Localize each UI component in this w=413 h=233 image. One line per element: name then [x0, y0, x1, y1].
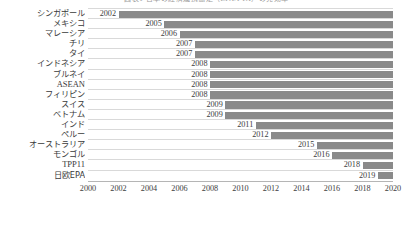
- row-track: 2019: [88, 170, 393, 180]
- row-track: 2011: [88, 119, 393, 129]
- chart-row: 日欧EPA2019: [0, 170, 413, 180]
- x-axis-tick-label: 2010: [232, 184, 248, 193]
- row-track: 2005: [88, 18, 393, 28]
- chart-row: フィリピン2008: [0, 89, 413, 99]
- row-label: ASEAN: [0, 79, 85, 89]
- row-track: 2007: [88, 38, 393, 48]
- x-axis-line: [88, 181, 393, 182]
- chart-row: メキシコ2005: [0, 18, 413, 28]
- bar: [256, 122, 393, 129]
- bar: [317, 142, 393, 149]
- chart-row: ペルー2012: [0, 129, 413, 139]
- row-label: シンガポール: [0, 8, 85, 18]
- chart-row: ブルネイ2008: [0, 69, 413, 79]
- x-axis-tick-label: 2012: [263, 184, 279, 193]
- row-track: 2009: [88, 99, 393, 109]
- chart-row: ベトナム2009: [0, 109, 413, 119]
- chart-title-text: 図表1 日本の経済連携協定（EPA/FTA）の発効年: [0, 0, 413, 3]
- chart-row: ASEAN2008: [0, 79, 413, 89]
- row-track: 2008: [88, 89, 393, 99]
- row-label: スイス: [0, 99, 85, 109]
- chart-row: オーストラリア2015: [0, 139, 413, 149]
- row-track: 2018: [88, 159, 393, 169]
- chart-rows: シンガポール2002メキシコ2005マレーシア2006チリ2007タイ2007イ…: [0, 8, 413, 180]
- chart-row: マレーシア2006: [0, 28, 413, 38]
- bar: [195, 41, 393, 48]
- x-axis-tick-label: 2008: [202, 184, 218, 193]
- chart-row: シンガポール2002: [0, 8, 413, 18]
- row-track: 2009: [88, 109, 393, 119]
- row-track: 2008: [88, 69, 393, 79]
- bar: [225, 101, 393, 108]
- row-track: 2015: [88, 139, 393, 149]
- x-axis-tick-label: 2016: [324, 184, 340, 193]
- bar: [225, 112, 393, 119]
- row-track: 2007: [88, 48, 393, 58]
- row-label: フィリピン: [0, 89, 85, 99]
- row-label: ブルネイ: [0, 69, 85, 79]
- x-axis-tick-label: 2006: [171, 184, 187, 193]
- row-label: タイ: [0, 48, 85, 58]
- chart-row: スイス2009: [0, 99, 413, 109]
- row-label: オーストラリア: [0, 139, 85, 149]
- x-axis-tick-label: 2014: [293, 184, 309, 193]
- chart-row: モンゴル2016: [0, 149, 413, 159]
- row-label: ペルー: [0, 129, 85, 139]
- chart-row: TPP112018: [0, 159, 413, 169]
- chart-row: チリ2007: [0, 38, 413, 48]
- row-label: モンゴル: [0, 149, 85, 159]
- bar: [271, 132, 393, 139]
- bar: [363, 162, 394, 169]
- row-track: 2016: [88, 149, 393, 159]
- row-track: 2008: [88, 79, 393, 89]
- row-track: 2006: [88, 28, 393, 38]
- x-axis-tick-label: 2002: [110, 184, 126, 193]
- row-label: インド: [0, 119, 85, 129]
- row-track: 2008: [88, 58, 393, 68]
- bar: [195, 51, 393, 58]
- chart-row: タイ2007: [0, 48, 413, 58]
- bar: [210, 81, 393, 88]
- row-label: マレーシア: [0, 28, 85, 38]
- x-axis-tick-label: 2000: [80, 184, 96, 193]
- bar: [210, 91, 393, 98]
- bar: [378, 172, 393, 179]
- x-axis-tick-label: 2018: [354, 184, 370, 193]
- bar: [164, 21, 393, 28]
- bar: [210, 61, 393, 68]
- chart-row: インド2011: [0, 119, 413, 129]
- row-track: 2002: [88, 8, 393, 18]
- bar-year-label: 2019: [359, 171, 378, 181]
- row-track: 2012: [88, 129, 393, 139]
- row-label: 日欧EPA: [0, 170, 85, 180]
- bar: [180, 31, 394, 38]
- x-axis-tick-label: 2004: [141, 184, 157, 193]
- bar-chart: シンガポール2002メキシコ2005マレーシア2006チリ2007タイ2007イ…: [0, 5, 413, 233]
- row-label: TPP11: [0, 159, 85, 169]
- row-label: ベトナム: [0, 109, 85, 119]
- row-label: メキシコ: [0, 18, 85, 28]
- bar: [119, 11, 394, 18]
- row-label: チリ: [0, 38, 85, 48]
- chart-row: インドネシア2008: [0, 58, 413, 68]
- bar: [332, 152, 393, 159]
- x-axis: 2000200220042006200820102012201420162018…: [88, 181, 393, 197]
- row-label: インドネシア: [0, 58, 85, 68]
- x-axis-tick-label: 2020: [385, 184, 401, 193]
- bar: [210, 71, 393, 78]
